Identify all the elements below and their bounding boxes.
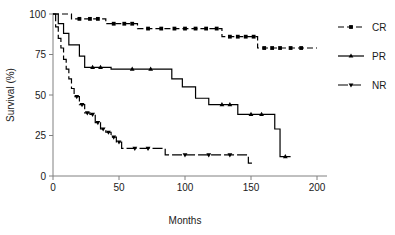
legend-label-PR: PR — [372, 51, 386, 62]
y-tick-label: 100 — [29, 9, 46, 20]
censor-mark-CR — [159, 27, 163, 31]
censor-mark-CR — [262, 46, 266, 50]
x-tick-label: 0 — [50, 182, 56, 193]
censor-mark-CR — [146, 27, 150, 31]
legend-label-NR: NR — [372, 80, 386, 91]
y-tick-label: 25 — [35, 130, 47, 141]
survival-chart: 0255075100050100150200 CRPRNR Survival (… — [0, 0, 395, 235]
censor-mark-CR — [215, 27, 219, 31]
censor-mark-CR — [289, 46, 293, 50]
censor-mark-CR — [130, 22, 134, 26]
x-tick-label: 100 — [177, 182, 194, 193]
censor-mark-CR — [78, 17, 82, 21]
series-CR — [53, 14, 317, 50]
censor-mark-CR — [88, 17, 92, 21]
censor-mark-CR — [236, 35, 240, 39]
censor-mark-CR — [173, 27, 177, 31]
censor-mark-CR — [112, 22, 116, 26]
y-tick-label: 75 — [35, 49, 47, 60]
y-tick-label: 0 — [40, 171, 46, 182]
censor-mark-CR — [299, 46, 303, 50]
censor-mark-CR — [270, 46, 274, 50]
censor-mark-CR — [228, 35, 232, 39]
censor-mark-CR — [278, 46, 282, 50]
x-tick-label: 200 — [309, 182, 326, 193]
legend-group: CRPRNR — [338, 22, 386, 91]
x-axis-title: Months — [169, 215, 202, 226]
censor-mark-CR — [96, 17, 100, 21]
censor-mark-CR — [183, 27, 187, 31]
censor-mark-CR — [244, 35, 248, 39]
censor-mark-CR — [122, 22, 126, 26]
censor-mark-CR — [252, 35, 256, 39]
legend-marker-CR — [349, 25, 353, 29]
kaplan-meier-plot: 0255075100050100150200 CRPRNR Survival (… — [0, 0, 395, 235]
x-tick-label: 150 — [243, 182, 260, 193]
curves-group — [53, 14, 317, 163]
axes-group: 0255075100050100150200 — [29, 9, 327, 194]
censor-mark-CR — [194, 27, 198, 31]
x-tick-label: 50 — [113, 182, 125, 193]
y-tick-label: 50 — [35, 90, 47, 101]
legend-label-CR: CR — [372, 22, 386, 33]
y-axis-title: Survival (%) — [5, 68, 16, 122]
censor-mark-CR — [204, 27, 208, 31]
series-line-CR — [53, 14, 317, 48]
